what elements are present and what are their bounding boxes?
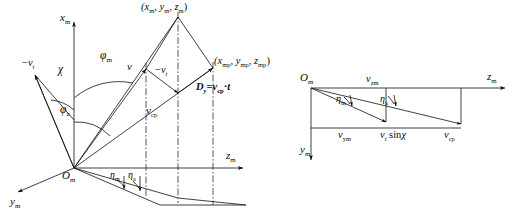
neg-vt-left-label: −vt xyxy=(22,58,34,71)
right-vzm-label: vzm xyxy=(366,74,379,87)
ground-edge-d xyxy=(178,198,246,205)
right-origin-label: Om xyxy=(300,72,313,86)
right-z-axis-label: zm xyxy=(487,71,497,85)
right-vcp-label: vcp xyxy=(444,130,455,143)
origin-label: Om xyxy=(62,170,75,184)
neg-vt-mid-label: −vt xyxy=(155,65,167,78)
right-eta-a-arc xyxy=(388,96,394,104)
y-axis-label: ym xyxy=(10,196,20,210)
x-axis-label: xm xyxy=(60,12,70,26)
right-vym-label: vym xyxy=(338,130,351,143)
velocity-v-line xyxy=(74,69,146,168)
velocity-v-label: v xyxy=(127,61,132,72)
eta-a-label: ηa xyxy=(128,170,136,182)
z-axis-label: zm xyxy=(226,150,236,164)
predicted-point-label: (xmp, ymp, zmp) xyxy=(214,56,270,69)
right-eta-a-tick xyxy=(394,95,396,106)
v-apex-to-target-line xyxy=(146,17,178,69)
phi-m-label: φm xyxy=(100,50,112,64)
ground-edge-b xyxy=(74,168,178,198)
right-vym-vector xyxy=(311,88,386,122)
right-eta-m-label: ηm xyxy=(336,94,346,106)
eta-m-label: ηm xyxy=(110,170,120,182)
origin-to-target-line xyxy=(74,17,178,168)
phi-a-label: φa xyxy=(60,104,70,118)
right-eta-m-tick xyxy=(350,95,352,106)
chi-label: χ xyxy=(58,64,63,76)
figure-canvas: xm zm ym Om (xm, ym, zm) (xmp, ymp, zmp)… xyxy=(0,0,526,221)
target-point-label: (xm, ym, zm) xyxy=(141,2,187,15)
left-triangle-edge xyxy=(35,75,74,168)
right-eta-a-label: ηa xyxy=(380,94,388,106)
right-vt-sin-chi-label: vt sinχ xyxy=(380,130,406,143)
right-y-axis-label: ym xyxy=(300,144,310,158)
dy-equation-label: Dy=vcp·t xyxy=(196,82,230,95)
diagram-vector-layer xyxy=(0,0,526,221)
target-to-predicted-line xyxy=(178,17,213,68)
vcp-label: vcp xyxy=(146,105,157,119)
